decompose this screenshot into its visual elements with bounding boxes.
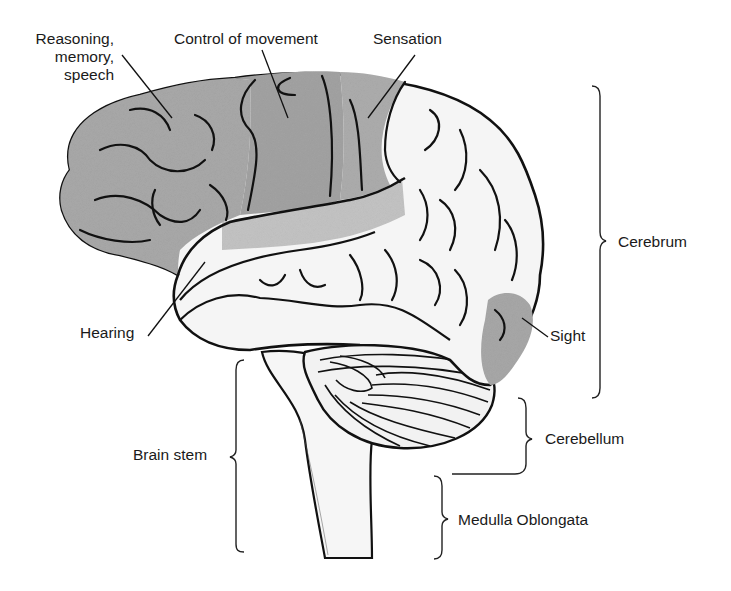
hearing-label: Hearing (80, 324, 134, 342)
cerebellum-label: Cerebellum (545, 430, 624, 448)
reasoning-label-line3: speech (14, 66, 114, 84)
brain-stem-brace (230, 360, 244, 552)
reasoning-label-line1: Reasoning, (14, 30, 114, 48)
reasoning-label-line2: memory, (14, 48, 114, 66)
brain-illustration (0, 0, 731, 591)
sight-label: Sight (550, 327, 585, 345)
cerebrum-label: Cerebrum (618, 233, 687, 251)
medulla-brace (434, 476, 448, 559)
medulla-label: Medulla Oblongata (458, 511, 588, 529)
movement-label: Control of movement (174, 30, 318, 48)
cerebrum-brace (592, 86, 606, 398)
sensation-label: Sensation (373, 30, 442, 48)
brain-diagram: Reasoning, memory, speech Control of mov… (0, 0, 731, 591)
brain-stem-label: Brain stem (133, 446, 207, 464)
visual-region-shaded (481, 293, 533, 385)
reasoning-label: Reasoning, memory, speech (14, 30, 114, 84)
